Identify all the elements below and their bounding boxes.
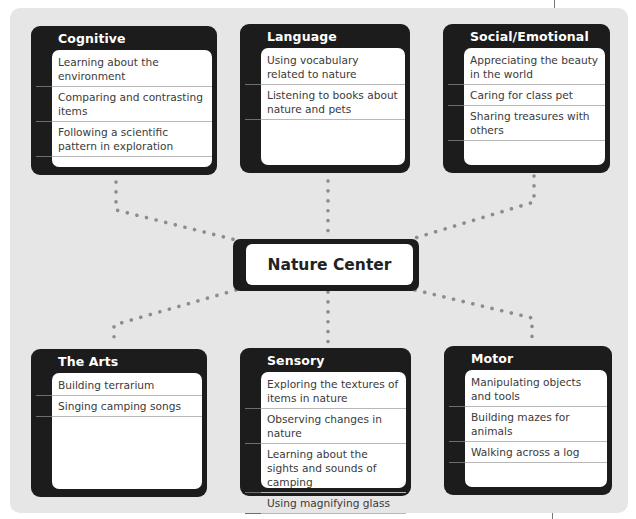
node-item: Following a scientific pattern in explor… <box>52 122 212 157</box>
node-sensory-development: Sensory Development Exploring the textur… <box>240 348 411 496</box>
node-item: Listening to books about nature and pets <box>261 85 405 120</box>
node-item: Singing camping songs <box>52 396 202 417</box>
node-title: Sensory Development <box>261 348 406 372</box>
connector-cognitive <box>116 182 236 240</box>
node-item: Building mazes for animals <box>465 407 607 442</box>
node-item: Caring for class pet <box>464 85 605 106</box>
node-item: Using vocabulary related to nature <box>261 48 405 85</box>
node-motor-development: Motor Development Manipulating objects a… <box>444 346 612 495</box>
connector-arts <box>114 290 236 346</box>
node-item: Learning about the sights and sounds of … <box>261 444 406 493</box>
node-item-list: Manipulating objects and tools Building … <box>465 370 607 487</box>
center-label: Nature Center <box>246 244 413 285</box>
node-item: Feeling moisture in terrarium <box>261 514 406 519</box>
node-item: Observing changes in nature <box>261 409 406 444</box>
node-item: Appreciating the beauty in the world <box>464 48 605 85</box>
node-item: Sharing treasures with others <box>464 106 605 141</box>
node-item: Comparing and contrasting items <box>52 87 212 122</box>
node-item: Learning about the environment <box>52 50 212 87</box>
node-item-list: Appreciating the beauty in the world Car… <box>464 48 605 165</box>
node-item-list: Exploring the textures of items in natur… <box>261 372 406 488</box>
node-the-arts: The Arts Building terrarium Singing camp… <box>31 349 207 497</box>
node-title: Motor Development <box>465 346 607 370</box>
node-title: Cognitive <box>52 26 212 50</box>
node-item: Exploring the textures of items in natur… <box>261 372 406 409</box>
connector-social-emotional <box>415 176 534 238</box>
node-social-emotional: Social/Emotional Appreciating the beauty… <box>443 24 610 173</box>
node-item-list: Learning about the environment Comparing… <box>52 50 212 167</box>
node-title: The Arts <box>52 349 202 373</box>
node-title: Social/Emotional <box>464 24 605 48</box>
node-title: Language <box>261 24 405 48</box>
node-item: Walking across a log <box>465 442 607 463</box>
node-cognitive: Cognitive Learning about the environment… <box>31 26 217 175</box>
center-node: Nature Center <box>233 239 419 291</box>
node-item: Using magnifying glass <box>261 493 406 514</box>
node-item-list: Building terrarium Singing camping songs <box>52 373 202 489</box>
node-item-list: Using vocabulary related to nature Liste… <box>261 48 405 165</box>
node-item: Building terrarium <box>52 373 202 396</box>
node-language: Language Using vocabulary related to nat… <box>240 24 410 173</box>
node-item: Manipulating objects and tools <box>465 370 607 407</box>
connector-motor <box>415 290 532 344</box>
